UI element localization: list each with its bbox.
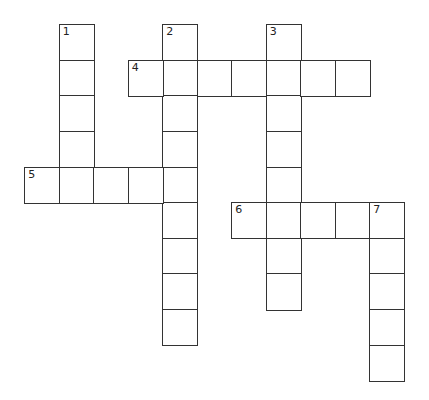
crossword-cell[interactable] — [300, 202, 336, 239]
crossword-cell[interactable]: 5 — [24, 167, 60, 204]
crossword-cell[interactable] — [59, 60, 95, 97]
crossword-cell[interactable] — [266, 60, 302, 97]
crossword-cell[interactable] — [59, 167, 95, 204]
crossword-cell[interactable]: 6 — [231, 202, 267, 239]
crossword-cell[interactable]: 1 — [59, 24, 95, 61]
clue-number: 1 — [63, 26, 70, 38]
crossword-cell[interactable]: 7 — [369, 202, 405, 239]
clue-number: 5 — [28, 169, 35, 181]
crossword-cell[interactable] — [266, 131, 302, 168]
crossword-cell[interactable] — [197, 60, 233, 97]
clue-number: 6 — [235, 204, 242, 216]
crossword-cell[interactable] — [162, 95, 198, 132]
crossword-cell[interactable] — [162, 60, 198, 97]
crossword-grid: 1234567 — [0, 0, 429, 400]
crossword-cell[interactable] — [266, 95, 302, 132]
crossword-cell[interactable]: 3 — [266, 24, 302, 61]
crossword-cell[interactable] — [266, 238, 302, 275]
crossword-cell[interactable]: 4 — [128, 60, 164, 97]
crossword-cell[interactable] — [162, 309, 198, 346]
crossword-cell[interactable] — [369, 273, 405, 310]
crossword-cell[interactable] — [335, 202, 371, 239]
crossword-cell[interactable] — [59, 95, 95, 132]
crossword-cell[interactable] — [162, 202, 198, 239]
crossword-cell[interactable] — [266, 273, 302, 310]
crossword-cell[interactable] — [162, 167, 198, 204]
clue-number: 3 — [270, 26, 277, 38]
crossword-cell[interactable] — [369, 309, 405, 346]
crossword-cell[interactable] — [369, 238, 405, 275]
crossword-cell[interactable] — [266, 167, 302, 204]
crossword-cell[interactable] — [266, 202, 302, 239]
crossword-cell[interactable] — [128, 167, 164, 204]
clue-number: 2 — [166, 26, 173, 38]
crossword-cell[interactable] — [162, 131, 198, 168]
crossword-cell[interactable] — [369, 345, 405, 382]
clue-number: 4 — [132, 62, 139, 74]
crossword-cell[interactable] — [231, 60, 267, 97]
crossword-cell[interactable]: 2 — [162, 24, 198, 61]
crossword-cell[interactable] — [162, 238, 198, 275]
crossword-cell[interactable] — [162, 273, 198, 310]
crossword-cell[interactable] — [59, 131, 95, 168]
crossword-cell[interactable] — [300, 60, 336, 97]
clue-number: 7 — [373, 204, 380, 216]
crossword-cell[interactable] — [93, 167, 129, 204]
crossword-cell[interactable] — [335, 60, 371, 97]
